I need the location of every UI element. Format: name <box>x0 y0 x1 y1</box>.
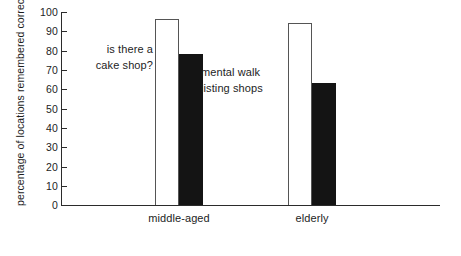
y-tick-label-10: 10 <box>18 181 58 191</box>
y-tick-40 <box>61 128 67 129</box>
annot-mental-walk-line2: listing shops <box>201 80 311 96</box>
y-tick-60 <box>61 89 67 90</box>
annot-cake-shop: is there a cake shop? <box>75 41 153 73</box>
annot-mental-walk-line1: mental walk <box>201 64 311 80</box>
x-category-label-elderly: elderly <box>264 212 360 224</box>
y-tick-label-100: 100 <box>18 7 58 17</box>
bar-middle-aged-cake-shop <box>155 19 179 205</box>
y-tick-label-40: 40 <box>18 123 58 133</box>
y-tick-10 <box>61 186 67 187</box>
y-tick-50 <box>61 109 67 110</box>
y-tick-80 <box>61 51 67 52</box>
y-tick-label-20: 20 <box>18 162 58 172</box>
bar-elderly-mental-walk <box>312 83 336 205</box>
y-tick-20 <box>61 167 67 168</box>
y-tick-90 <box>61 31 67 32</box>
chart-page: percentage of locations remembered corre… <box>0 0 461 256</box>
y-tick-label-80: 80 <box>18 46 58 56</box>
y-tick-label-70: 70 <box>18 65 58 75</box>
annot-cake-shop-line2: cake shop? <box>75 57 153 73</box>
y-tick-label-50: 50 <box>18 104 58 114</box>
annot-cake-shop-line1: is there a <box>75 41 153 57</box>
x-axis-line <box>61 205 440 206</box>
annot-mental-walk: mental walk listing shops <box>201 64 311 96</box>
x-category-label-middle-aged: middle-aged <box>119 212 239 224</box>
y-tick-100 <box>61 12 67 13</box>
bar-middle-aged-mental-walk <box>179 54 203 205</box>
y-tick-70 <box>61 70 67 71</box>
y-tick-label-0: 0 <box>18 200 58 210</box>
bar-elderly-cake-shop <box>288 23 312 205</box>
y-tick-label-90: 90 <box>18 26 58 36</box>
y-tick-label-30: 30 <box>18 142 58 152</box>
bar-chart: percentage of locations remembered corre… <box>0 0 461 256</box>
y-tick-30 <box>61 147 67 148</box>
y-tick-label-60: 60 <box>18 84 58 94</box>
